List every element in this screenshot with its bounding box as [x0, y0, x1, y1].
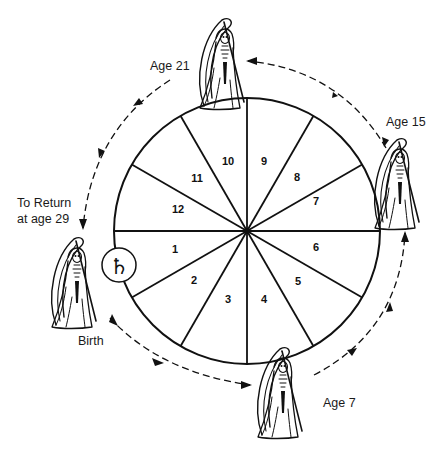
arrowhead-icon	[152, 358, 164, 366]
house-8: 8	[294, 171, 300, 183]
arrow-age7-to-age15	[314, 233, 405, 375]
reaper-figure-birth	[52, 238, 96, 329]
saturn-glyph: ♄	[102, 248, 136, 282]
house-10: 10	[222, 155, 234, 167]
house-11: 11	[191, 172, 203, 184]
arrowhead-icon	[109, 314, 118, 326]
saturn-return-diagram: 1 2 3 4 5 6 7 8 9 10 11 12 ♄	[0, 0, 442, 453]
house-12: 12	[172, 203, 184, 215]
reaper-figure-age21	[200, 19, 244, 110]
house-2: 2	[191, 274, 197, 286]
arrow-age21-to-return	[83, 80, 170, 228]
label-return-line1: To Return	[17, 196, 71, 210]
house-6: 6	[313, 241, 319, 253]
house-3: 3	[225, 293, 231, 305]
arrowhead-icon	[347, 348, 357, 356]
house-5: 5	[295, 275, 301, 287]
label-age-15: Age 15	[386, 115, 426, 129]
cycle-arrows	[79, 57, 409, 389]
reaper-figure-age7	[258, 348, 302, 439]
label-birth: Birth	[78, 334, 104, 348]
arrow-birth-to-age7	[110, 318, 250, 385]
house-9: 9	[261, 155, 267, 167]
arrowhead-icon	[246, 57, 257, 65]
arrowhead-icon	[401, 231, 409, 242]
house-7: 7	[313, 195, 319, 207]
house-wheel: 1 2 3 4 5 6 7 8 9 10 11 12	[114, 98, 380, 364]
label-age-21: Age 21	[150, 59, 190, 73]
house-4: 4	[261, 293, 268, 305]
arrowhead-icon	[241, 381, 252, 389]
arrow-age15-to-age21	[248, 61, 386, 148]
reaper-figure-age15	[375, 139, 419, 230]
saturn-icon: ♄	[109, 254, 129, 279]
house-1: 1	[172, 243, 178, 255]
arrowhead-icon	[382, 137, 389, 147]
arrowhead-icon	[332, 92, 338, 98]
label-return-line2: at age 29	[17, 212, 69, 226]
arrowhead-icon	[79, 219, 87, 230]
arrowhead-icon	[133, 98, 143, 106]
wheel-center	[244, 228, 250, 234]
label-age-7: Age 7	[323, 396, 356, 410]
